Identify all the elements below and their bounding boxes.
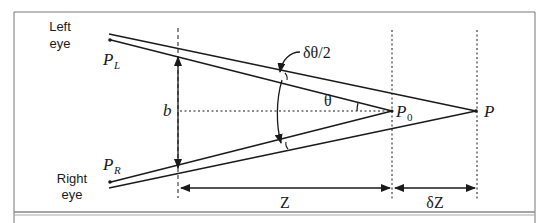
left-eye-label-line1: Left bbox=[49, 19, 71, 34]
left-eye-label: Left eye bbox=[49, 19, 71, 51]
theta-label: θ bbox=[324, 92, 332, 109]
stereo-geometry-diagram: Left eye Right eye P L P R b bbox=[0, 0, 548, 223]
z-label: Z bbox=[280, 194, 290, 211]
p0-main: P bbox=[395, 102, 406, 121]
right-eye-label-line2: eye bbox=[62, 187, 83, 202]
p-left-main: P bbox=[102, 50, 113, 69]
half-delta-theta-label: δθ/2 bbox=[303, 44, 331, 61]
delta-z-label: δZ bbox=[426, 194, 443, 211]
p-left-sub: L bbox=[113, 59, 120, 71]
p-point bbox=[474, 109, 478, 113]
theta-arc bbox=[357, 103, 358, 111]
figure-frame bbox=[14, 12, 535, 223]
half-delta-theta-pointer-upper bbox=[280, 52, 300, 72]
half-delta-theta-arc-lower bbox=[286, 142, 288, 149]
p-right-label: P R bbox=[102, 155, 121, 176]
p-left-label: P L bbox=[102, 50, 120, 71]
p-right-main: P bbox=[102, 155, 113, 174]
left-eye-label-line2: eye bbox=[50, 36, 71, 51]
p-label: P bbox=[483, 102, 494, 121]
p-right-sub: R bbox=[113, 164, 121, 176]
p0-point bbox=[390, 109, 393, 112]
half-delta-theta-arc-upper bbox=[285, 73, 287, 80]
right-eye-label: Right eye bbox=[57, 171, 88, 202]
p0-sub: 0 bbox=[407, 111, 413, 123]
right-eye-label-line1: Right bbox=[57, 171, 88, 186]
baseline-label: b bbox=[163, 101, 172, 120]
p0-label: P 0 bbox=[395, 102, 413, 123]
